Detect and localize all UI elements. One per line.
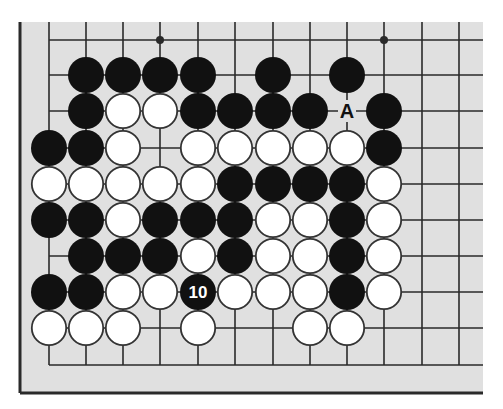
black-stone [31, 130, 67, 166]
white-stone-icon [143, 167, 177, 201]
white-stone [69, 311, 103, 345]
white-stone [256, 275, 290, 309]
white-stone-icon [256, 131, 290, 165]
white-stone-icon [293, 203, 327, 237]
white-stone [367, 167, 401, 201]
white-stone-icon [293, 275, 327, 309]
black-stone [105, 57, 141, 93]
white-stone-icon [256, 275, 290, 309]
white-stone-icon [367, 239, 401, 273]
white-stone [32, 311, 66, 345]
white-stone-icon [256, 203, 290, 237]
white-stone [106, 131, 140, 165]
white-stone [256, 239, 290, 273]
white-stone [32, 167, 66, 201]
black-stone [255, 166, 291, 202]
white-stone [293, 275, 327, 309]
black-stone [31, 274, 67, 310]
white-stone-icon [106, 203, 140, 237]
black-stone-icon [180, 202, 216, 238]
white-stone-icon [32, 311, 66, 345]
black-stone-icon [31, 130, 67, 166]
black-stone [68, 130, 104, 166]
white-stone [293, 203, 327, 237]
white-stone [218, 275, 252, 309]
black-stone-icon [255, 57, 291, 93]
black-stone-icon [255, 93, 291, 129]
white-stone [143, 275, 177, 309]
black-stone [180, 93, 216, 129]
white-stone-icon [367, 275, 401, 309]
white-stone-icon [293, 239, 327, 273]
black-stone-icon [180, 57, 216, 93]
black-stone [217, 238, 253, 274]
black-stone [217, 166, 253, 202]
black-stone-icon [142, 238, 178, 274]
black-stone [105, 238, 141, 274]
white-stone [69, 167, 103, 201]
black-stone [142, 57, 178, 93]
white-stone-icon [181, 311, 215, 345]
black-stone-icon [68, 57, 104, 93]
black-stone-icon [31, 202, 67, 238]
white-stone [106, 275, 140, 309]
white-stone [143, 167, 177, 201]
black-stone [68, 57, 104, 93]
white-stone [293, 131, 327, 165]
black-stone [329, 274, 365, 310]
black-stone [255, 57, 291, 93]
white-stone [181, 167, 215, 201]
black-stone [217, 93, 253, 129]
black-stone [142, 202, 178, 238]
white-stone-icon [106, 275, 140, 309]
white-stone [293, 239, 327, 273]
black-stone [180, 57, 216, 93]
white-stone [256, 203, 290, 237]
black-stone-icon [31, 274, 67, 310]
black-stone [329, 238, 365, 274]
white-stone [367, 239, 401, 273]
go-board: A 10 [0, 0, 503, 409]
white-stone-icon [106, 311, 140, 345]
white-stone-icon [106, 167, 140, 201]
black-stone-icon [68, 93, 104, 129]
white-stone-icon [181, 131, 215, 165]
white-stone [181, 239, 215, 273]
black-stone [329, 57, 365, 93]
black-stone-icon [329, 166, 365, 202]
white-stone-icon [330, 131, 364, 165]
white-stone-icon [330, 311, 364, 345]
black-stone-icon [329, 274, 365, 310]
white-stone [106, 94, 140, 128]
black-stone-icon [142, 57, 178, 93]
black-stone [217, 202, 253, 238]
white-stone [367, 203, 401, 237]
black-stone-icon [68, 130, 104, 166]
black-stone-icon [105, 57, 141, 93]
white-stone [330, 131, 364, 165]
black-stone-icon [217, 238, 253, 274]
black-stone [366, 130, 402, 166]
black-stone-icon [217, 202, 253, 238]
black-stone [68, 93, 104, 129]
black-stone [68, 274, 104, 310]
black-stone [366, 93, 402, 129]
black-stone [292, 166, 328, 202]
white-stone-icon [367, 203, 401, 237]
white-stone-icon [69, 167, 103, 201]
black-stone-icon [142, 202, 178, 238]
white-stone-icon [218, 275, 252, 309]
black-stone-icon [68, 238, 104, 274]
black-stone-icon [366, 93, 402, 129]
black-stone [142, 238, 178, 274]
black-stone-icon [255, 166, 291, 202]
white-stone [330, 311, 364, 345]
black-stone [329, 202, 365, 238]
white-stone-icon [143, 275, 177, 309]
star-point-icon [156, 36, 164, 44]
white-stone [293, 311, 327, 345]
black-stone-icon [366, 130, 402, 166]
star-point-icon [380, 36, 388, 44]
black-stone-icon [329, 202, 365, 238]
white-stone [106, 203, 140, 237]
